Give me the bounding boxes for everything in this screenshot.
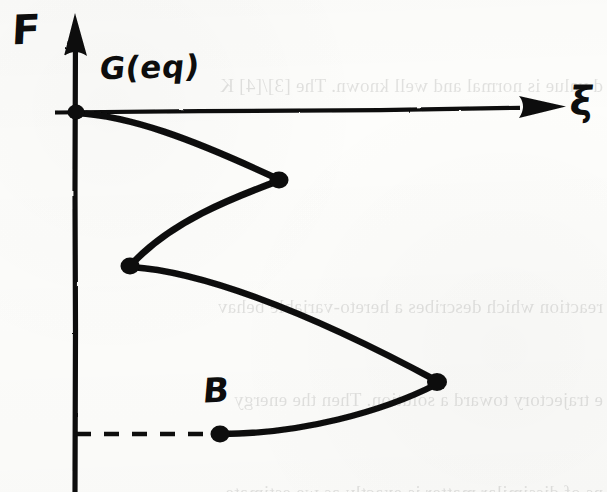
node-turn2 [121, 258, 140, 275]
node-g-eq [68, 105, 85, 120]
annotation-b: B [201, 370, 231, 411]
curve-segment-turn1-to-turn2 [131, 181, 278, 265]
axis-label-xi: ξ [568, 78, 596, 124]
y-axis-line [75, 30, 76, 492]
node-b [211, 426, 230, 443]
x-axis-line [55, 108, 520, 113]
axis-label-f: F [11, 6, 42, 55]
free-energy-curve-drawing [0, 0, 607, 492]
curve-nodes [68, 105, 448, 443]
curve-segment-turn3-to-b [221, 384, 437, 434]
node-turn1 [270, 172, 289, 189]
y-axis-arrowhead [64, 13, 87, 56]
curve-segment-turn2-to-turn3 [131, 267, 437, 381]
curve-segment-g-to-turn1 [76, 113, 278, 179]
sketch-canvas: d value is normal and well known. The [3… [0, 0, 607, 492]
annotation-g-eq: G(eq) [98, 48, 202, 87]
x-axis-arrowhead [519, 96, 566, 118]
node-turn3 [427, 373, 447, 391]
